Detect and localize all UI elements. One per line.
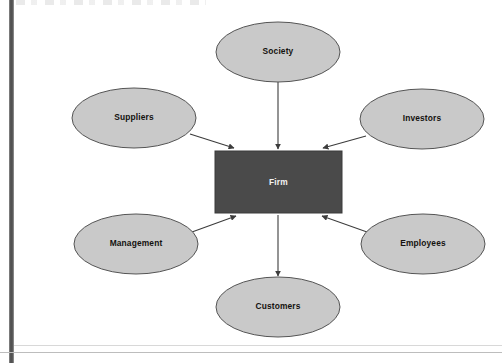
society-label: Society xyxy=(263,46,294,56)
edge-employees-to-firm xyxy=(322,216,367,232)
node-society[interactable]: Society xyxy=(216,22,340,82)
edge-investors-to-firm xyxy=(323,136,366,148)
employees-label: Employees xyxy=(400,238,446,248)
management-label: Management xyxy=(110,238,163,248)
customers-label: Customers xyxy=(255,301,300,311)
node-suppliers[interactable]: Suppliers xyxy=(72,88,196,148)
node-customers[interactable]: Customers xyxy=(216,277,340,337)
node-firm[interactable]: Firm xyxy=(215,151,342,213)
stakeholder-diagram: Firm Society Suppliers Investors Managem… xyxy=(0,0,502,363)
suppliers-label: Suppliers xyxy=(114,112,154,122)
node-employees[interactable]: Employees xyxy=(361,214,485,274)
investors-label: Investors xyxy=(403,113,442,123)
node-management[interactable]: Management xyxy=(74,214,198,274)
edge-suppliers-to-firm xyxy=(190,134,234,148)
page-canvas: Firm Society Suppliers Investors Managem… xyxy=(0,0,502,363)
firm-label: Firm xyxy=(269,177,288,187)
node-investors[interactable]: Investors xyxy=(360,89,484,149)
edge-management-to-firm xyxy=(192,216,236,232)
